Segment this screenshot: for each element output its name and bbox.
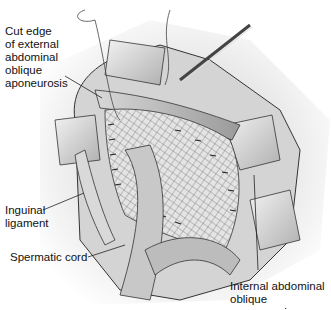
label-cut-edge-external-oblique: Cut edge of external abdominal oblique a… [5,25,68,90]
label-internal-oblique-aponeurosis: Internal abdominal oblique aponeurosis [230,280,331,310]
illustration-canvas: Cut edge of external abdominal oblique a… [0,0,331,310]
label-spermatic-cord: Spermatic cord [10,251,87,264]
label-inguinal-ligament: Inguinal ligament [5,204,48,230]
